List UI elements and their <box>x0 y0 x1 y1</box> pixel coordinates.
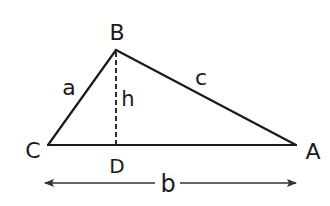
vertex-label-d: D <box>109 154 124 178</box>
vertex-label-c: C <box>25 138 40 163</box>
side-label-c: c <box>195 65 207 90</box>
altitude-label-h: h <box>121 87 134 111</box>
side-a-line <box>48 50 116 145</box>
dimension-label-b: b <box>160 170 175 198</box>
side-label-a: a <box>62 75 75 100</box>
vertex-label-a: A <box>305 139 320 164</box>
vertex-label-b: B <box>109 20 124 45</box>
triangle-diagram: B C D A a c h b <box>0 0 330 206</box>
